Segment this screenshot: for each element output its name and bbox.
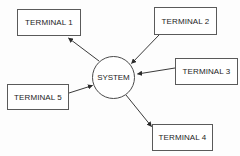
diagram-canvas: TERMINAL 1 TERMINAL 2 TERMINAL 3 TERMINA… xyxy=(0,0,240,156)
node-terminal-3[interactable]: TERMINAL 3 xyxy=(175,58,238,85)
connector-system-to-terminal-4 xyxy=(126,95,152,127)
connector-terminal-5-to-system xyxy=(69,86,93,94)
connector-terminal-3-to-system xyxy=(138,68,176,74)
node-terminal-2-label: TERMINAL 2 xyxy=(162,17,210,26)
node-system-hub[interactable]: SYSTEM xyxy=(92,56,135,99)
connector-system-to-terminal-1 xyxy=(69,38,100,61)
node-terminal-3-label: TERMINAL 3 xyxy=(183,67,231,76)
node-terminal-4[interactable]: TERMINAL 4 xyxy=(152,124,213,151)
node-system-hub-label: SYSTEM xyxy=(97,73,129,82)
node-terminal-1-label: TERMINAL 1 xyxy=(25,18,73,27)
node-terminal-5[interactable]: TERMINAL 5 xyxy=(7,84,69,110)
node-terminal-2[interactable]: TERMINAL 2 xyxy=(154,7,217,35)
node-terminal-5-label: TERMINAL 5 xyxy=(14,93,62,102)
connector-terminal-2-to-system xyxy=(132,35,160,64)
node-terminal-1[interactable]: TERMINAL 1 xyxy=(17,9,81,36)
node-terminal-4-label: TERMINAL 4 xyxy=(159,133,207,142)
